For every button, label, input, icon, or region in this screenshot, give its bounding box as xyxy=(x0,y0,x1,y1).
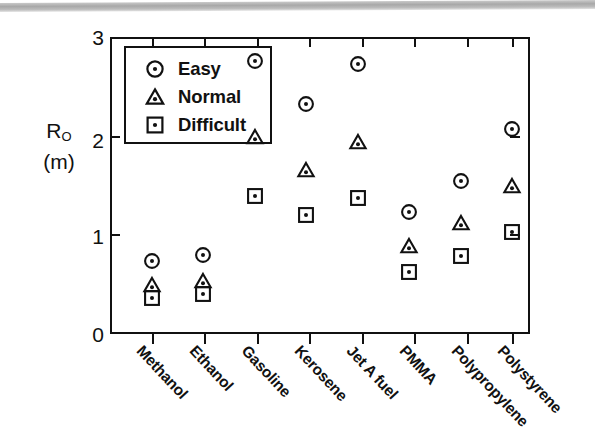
x-tick-mark-methanol xyxy=(152,334,154,344)
data-point-normal-polypropylene xyxy=(451,213,471,233)
x-tick-mark-ethanol xyxy=(204,334,206,344)
legend-label-easy: Easy xyxy=(178,58,221,80)
x-tick-mark-top-pmma xyxy=(414,37,416,47)
y-tick-mark-1 xyxy=(110,234,120,236)
x-axis-label-pmma: PMMA xyxy=(396,342,441,388)
y-axis-tick-labels: 3 2 1 0 xyxy=(76,0,104,435)
y-axis-title-main: R xyxy=(46,119,61,142)
data-point-difficult-gasoline xyxy=(245,186,265,206)
circle-dot-icon xyxy=(142,58,168,80)
y-axis-title-line1: RO xyxy=(26,118,92,149)
square-dot-icon xyxy=(142,114,168,136)
y-tick-label-3: 3 xyxy=(78,26,104,50)
data-point-difficult-polystyrene xyxy=(502,222,522,242)
data-point-normal-kerosene xyxy=(296,160,316,180)
y-axis-title-unit: (m) xyxy=(26,149,92,174)
triangle-dot-icon xyxy=(142,86,168,108)
x-tick-mark-top-polypropylene xyxy=(467,37,469,47)
legend-label-difficult: Difficult xyxy=(178,114,246,136)
legend-label-normal: Normal xyxy=(178,86,241,108)
data-point-easy-polypropylene xyxy=(451,171,471,191)
x-tick-mark-polystyrene xyxy=(512,334,514,344)
x-tick-mark-kerosene xyxy=(309,334,311,344)
data-point-easy-polystyrene xyxy=(502,119,522,139)
y-tick-label-1: 1 xyxy=(78,225,104,249)
x-axis-label-methanol: Methanol xyxy=(133,342,191,403)
x-axis-label-gasoline: Gasoline xyxy=(238,342,295,401)
data-point-easy-kerosene xyxy=(296,94,316,114)
y-tick-mark-2 xyxy=(110,136,120,138)
data-point-difficult-jet-a-fuel xyxy=(348,188,368,208)
data-point-difficult-pmma xyxy=(399,262,419,282)
x-tick-mark-top-polystyrene xyxy=(512,37,514,47)
data-point-normal-pmma xyxy=(399,236,419,256)
y-axis-title: RO (m) xyxy=(26,118,92,174)
x-tick-mark-top-jet-a-fuel xyxy=(362,37,364,47)
data-point-difficult-ethanol xyxy=(193,284,213,304)
data-point-normal-polystyrene xyxy=(502,176,522,196)
data-point-easy-gasoline xyxy=(245,51,265,71)
x-tick-mark-polypropylene xyxy=(467,334,469,344)
y-tick-label-0: 0 xyxy=(78,323,104,347)
legend-item-normal: Normal xyxy=(126,83,270,111)
x-tick-mark-pmma xyxy=(414,334,416,344)
data-point-difficult-polypropylene xyxy=(451,246,471,266)
data-point-normal-jet-a-fuel xyxy=(348,132,368,152)
data-point-easy-jet-a-fuel xyxy=(348,54,368,74)
data-point-easy-pmma xyxy=(399,202,419,222)
data-point-easy-ethanol xyxy=(193,245,213,265)
data-point-difficult-methanol xyxy=(142,288,162,308)
data-point-easy-methanol xyxy=(142,251,162,271)
x-axis-label-ethanol: Ethanol xyxy=(186,342,237,395)
x-tick-mark-top-kerosene xyxy=(309,37,311,47)
data-point-difficult-kerosene xyxy=(296,205,316,225)
x-tick-mark-gasoline xyxy=(257,334,259,344)
y-axis-title-subscript: O xyxy=(62,129,72,144)
data-point-normal-gasoline xyxy=(245,127,265,147)
x-axis-label-jet-a-fuel: Jet A fuel xyxy=(343,342,402,403)
x-tick-mark-jet-a-fuel xyxy=(362,334,364,344)
x-axis-label-kerosene: Kerosene xyxy=(291,342,351,405)
chart-figure: 3 2 1 0 RO (m) Easy xyxy=(0,0,595,435)
